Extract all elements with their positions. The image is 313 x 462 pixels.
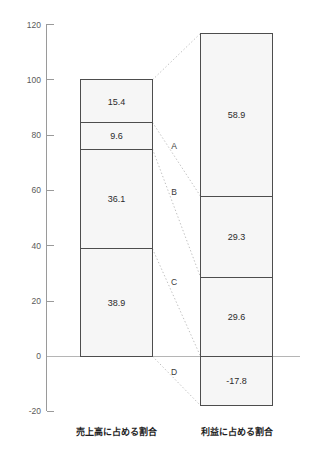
connector-line-d	[153, 356, 201, 405]
bar-segment-value: 36.1	[108, 194, 126, 204]
connector-lines	[153, 33, 201, 405]
connector-line-c	[153, 249, 201, 356]
connector-label-c: C	[171, 277, 177, 287]
connector-label-b: B	[171, 187, 177, 197]
category-labels: 売上高に占める割合 利益に占める割合	[76, 426, 274, 437]
stacked-bar-chart: 120 100 80 60 40 20 0 -20 A B C D	[0, 0, 313, 462]
category-label-sales: 売上高に占める割合	[76, 426, 158, 437]
y-tick-label: 80	[32, 130, 42, 140]
category-label-profit: 利益に占める割合	[200, 426, 274, 437]
y-tick-label: 0	[36, 351, 41, 361]
bar-segment-value: 15.4	[108, 97, 126, 107]
y-tick-label: 20	[32, 296, 42, 306]
bar-group-sales-ratio: 15.4 9.6 36.1 38.9	[81, 80, 153, 357]
y-axis-tick-labels: 120 100 80 60 40 20 0 -20	[27, 20, 41, 417]
connector-label-d: D	[171, 367, 177, 377]
bar-segment-value: 29.6	[228, 312, 246, 322]
connector-labels: A B C D	[171, 141, 177, 377]
bar-segment-value: 58.9	[228, 110, 246, 120]
connector-line-b	[153, 149, 201, 277]
bar-segment-value: 9.6	[110, 131, 123, 141]
y-tick-label: 40	[32, 241, 42, 251]
chart-canvas: 120 100 80 60 40 20 0 -20 A B C D	[0, 0, 313, 462]
bar-group-profit-ratio: 58.9 29.3 29.6 -17.8	[201, 33, 273, 405]
bar-segment-value: 38.9	[108, 298, 126, 308]
y-tick-label: 120	[27, 20, 41, 30]
connector-line-top	[153, 33, 201, 79]
bar-segment-value: 29.3	[228, 232, 246, 242]
y-tick-label: 60	[32, 185, 42, 195]
connector-line-a	[153, 122, 201, 196]
y-tick-label: -20	[29, 406, 42, 416]
y-tick-label: 100	[27, 75, 41, 85]
bar-segment-value: -17.8	[226, 376, 247, 386]
connector-label-a: A	[171, 141, 177, 151]
y-axis-ticks	[47, 25, 54, 412]
